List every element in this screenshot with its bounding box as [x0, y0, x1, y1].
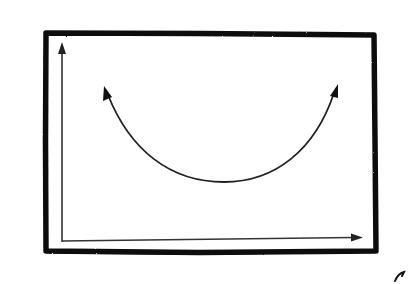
y-axis-arrow-icon: [58, 42, 66, 54]
pen-mark: [395, 272, 404, 281]
y-axis: [58, 42, 66, 242]
sketch-diagram: [0, 0, 408, 284]
curve-left-arrow-icon: [103, 86, 112, 101]
x-axis: [62, 234, 363, 242]
x-axis-arrow-icon: [351, 234, 363, 242]
u-curve: [103, 84, 338, 182]
plot-frame: [46, 33, 377, 254]
curve-right-arrow-icon: [330, 84, 338, 98]
